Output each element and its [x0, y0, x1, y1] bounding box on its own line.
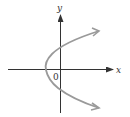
y-axis-label: y [56, 3, 63, 13]
parabola-graph: y x 0 [0, 0, 130, 117]
origin-label: 0 [53, 72, 59, 82]
x-axis-label: x [116, 65, 121, 75]
